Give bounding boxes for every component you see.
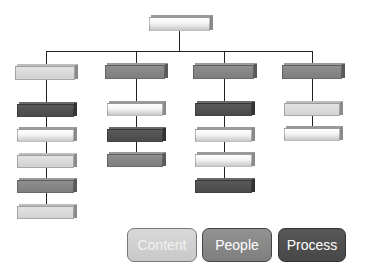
legend-content-label: Content xyxy=(137,237,186,253)
col3-node xyxy=(195,152,255,167)
legend-people-label: People xyxy=(215,237,259,253)
col1-node xyxy=(17,153,77,168)
col2-node xyxy=(107,127,166,142)
col4-node xyxy=(284,101,343,116)
col1-node xyxy=(17,178,77,193)
col1-node xyxy=(17,127,77,142)
col3-node xyxy=(195,101,255,116)
legend-process-label: Process xyxy=(287,237,338,253)
col1-node xyxy=(17,102,77,117)
col2-node xyxy=(107,152,166,167)
legend-people: People xyxy=(202,228,272,262)
root-connector xyxy=(179,30,180,51)
col3-node xyxy=(195,127,255,142)
horizontal-connector xyxy=(46,51,313,52)
col3-node xyxy=(195,178,255,193)
col1-node xyxy=(17,204,77,219)
col2-node xyxy=(107,101,166,116)
col4-node xyxy=(284,126,343,141)
legend-process: Process xyxy=(278,228,346,262)
col1-head-node xyxy=(15,64,78,80)
col3-head-node xyxy=(193,63,257,79)
legend-content: Content xyxy=(127,228,197,262)
col4-head-node xyxy=(282,63,345,79)
root-node xyxy=(149,15,213,31)
col2-head-node xyxy=(105,63,168,79)
